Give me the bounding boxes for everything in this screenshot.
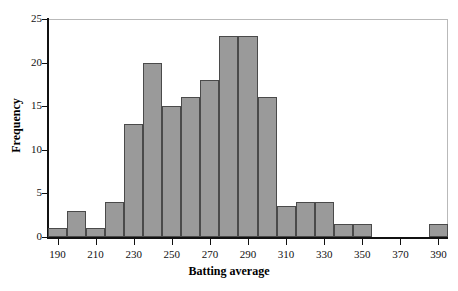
y-tick-label: 20 bbox=[6, 56, 42, 68]
x-tick-label: 290 bbox=[228, 248, 268, 260]
x-tick-label: 350 bbox=[342, 248, 382, 260]
histogram-bar bbox=[277, 206, 296, 237]
x-axis-label: Batting average bbox=[0, 264, 458, 279]
x-tick-label: 330 bbox=[304, 248, 344, 260]
x-tick-mark bbox=[134, 239, 135, 245]
x-tick-mark bbox=[286, 239, 287, 245]
x-tick-mark bbox=[58, 239, 59, 245]
histogram-bar bbox=[315, 202, 334, 237]
histogram-bar bbox=[296, 202, 315, 237]
histogram-bar bbox=[219, 36, 238, 237]
histogram-bar bbox=[143, 63, 162, 237]
y-tick-label: 0 bbox=[6, 230, 42, 242]
y-axis-label: Frequency bbox=[9, 76, 24, 176]
x-tick-mark bbox=[438, 239, 439, 245]
histogram-bar bbox=[67, 211, 86, 237]
histogram-bar bbox=[162, 106, 181, 237]
x-tick-label: 370 bbox=[380, 248, 420, 260]
x-tick-mark bbox=[324, 239, 325, 245]
x-tick-label: 310 bbox=[266, 248, 306, 260]
histogram-bar bbox=[429, 224, 448, 237]
histogram-bar bbox=[258, 97, 277, 237]
histogram-bars bbox=[48, 19, 448, 237]
y-tick-mark bbox=[42, 237, 48, 238]
x-tick-label: 190 bbox=[38, 248, 78, 260]
x-tick-label: 210 bbox=[76, 248, 116, 260]
x-tick-mark bbox=[210, 239, 211, 245]
histogram-bar bbox=[124, 124, 143, 237]
x-tick-mark bbox=[362, 239, 363, 245]
y-tick-label: 5 bbox=[6, 186, 42, 198]
x-tick-label: 390 bbox=[418, 248, 458, 260]
x-tick-label: 250 bbox=[152, 248, 192, 260]
histogram-bar bbox=[86, 228, 105, 237]
histogram-bar bbox=[48, 228, 67, 237]
x-tick-mark bbox=[400, 239, 401, 245]
histogram-bar bbox=[105, 202, 124, 237]
histogram-bar bbox=[181, 97, 200, 237]
histogram-bar bbox=[353, 224, 372, 237]
y-tick-label: 25 bbox=[6, 12, 42, 24]
histogram-figure: 0510152025 19021023025027029031033035037… bbox=[0, 0, 458, 291]
x-tick-mark bbox=[96, 239, 97, 245]
histogram-bar bbox=[238, 36, 257, 237]
x-tick-mark bbox=[172, 239, 173, 245]
x-tick-mark bbox=[248, 239, 249, 245]
histogram-bar bbox=[334, 224, 353, 237]
histogram-bar bbox=[200, 80, 219, 237]
x-tick-label: 270 bbox=[190, 248, 230, 260]
x-tick-label: 230 bbox=[114, 248, 154, 260]
